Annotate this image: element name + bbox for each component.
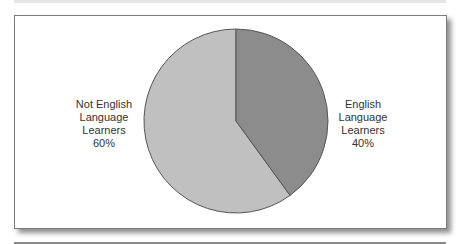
label-percent: 60%	[59, 137, 149, 150]
label-ell: English Language Learners 40%	[318, 98, 408, 150]
label-text: Learners	[318, 124, 408, 137]
top-band	[14, 0, 446, 3]
label-not-ell: Not English Language Learners 60%	[59, 98, 149, 150]
label-text: Not English	[59, 98, 149, 111]
label-percent: 40%	[318, 137, 408, 150]
label-text: English	[318, 98, 408, 111]
label-text: Language	[59, 111, 149, 124]
label-text: Language	[318, 111, 408, 124]
label-text: Learners	[59, 124, 149, 137]
